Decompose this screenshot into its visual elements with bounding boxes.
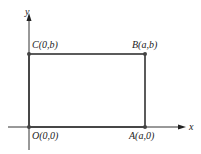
point-A-label: A(a,0): [129, 130, 154, 141]
x-axis-arrow-icon: [178, 125, 186, 130]
y-axis-label: y: [25, 6, 29, 17]
point-O: [27, 125, 31, 129]
point-C-label: C(0,b): [32, 39, 58, 50]
point-O-label: O(0,0): [32, 130, 58, 141]
point-C: [27, 52, 31, 56]
point-A: [143, 125, 147, 129]
rectangle-diagram: [0, 0, 201, 154]
point-B: [143, 52, 147, 56]
rectangle-OABC: [29, 54, 145, 127]
point-B-label: B(a,b): [132, 39, 157, 50]
x-axis-label: x: [189, 121, 193, 132]
